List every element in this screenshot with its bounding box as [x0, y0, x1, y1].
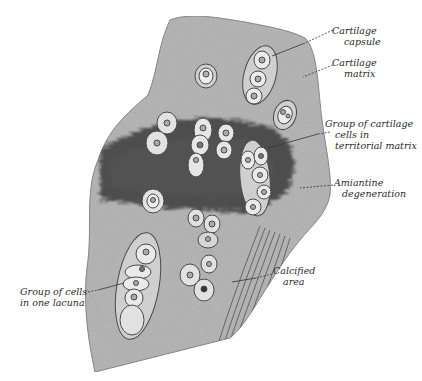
- label-cartilage-capsule: Cartilage capsule: [332, 25, 381, 47]
- label-line: Group of cartilage: [325, 118, 417, 129]
- label-line: Calcified: [273, 265, 315, 276]
- label-line: territorial matrix: [325, 140, 417, 151]
- cell-lacuna: [146, 131, 168, 155]
- label-cartilage-matrix: Cartilage matrix: [332, 57, 377, 79]
- cell-lacuna: [195, 64, 217, 88]
- label-calcified: Calcified area: [273, 265, 315, 287]
- label-line: Cartilage: [332, 25, 381, 36]
- label-amiantine: Amiantine degeneration: [334, 177, 406, 199]
- label-line: Cartilage: [332, 57, 377, 68]
- label-line: cells in: [325, 129, 417, 140]
- label-line: Group of cells: [20, 286, 87, 297]
- label-group-lacuna: Group of cells in one lacuna: [20, 286, 87, 308]
- label-line: in one lacuna: [20, 297, 87, 308]
- label-line: area: [273, 276, 315, 287]
- cell-lacuna: [157, 112, 177, 134]
- label-line: degeneration: [334, 188, 406, 199]
- label-line: matrix: [332, 68, 377, 79]
- cell-lacuna: [142, 189, 164, 213]
- label-group-territorial: Group of cartilage cells in territorial …: [325, 118, 417, 151]
- label-line: capsule: [332, 36, 381, 47]
- tissue-section: [86, 16, 331, 372]
- leader-capsule: [305, 30, 333, 43]
- label-line: Amiantine: [334, 177, 406, 188]
